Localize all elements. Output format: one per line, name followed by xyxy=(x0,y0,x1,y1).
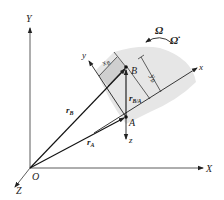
point-B xyxy=(124,65,128,69)
label-omega-dot: Ω̇ xyxy=(170,34,180,46)
label-omega: Ω xyxy=(155,24,164,36)
label-local-x: x xyxy=(198,62,203,72)
label-Y: Y xyxy=(26,13,33,24)
point-A xyxy=(124,115,128,119)
label-r-A: rA xyxy=(87,137,95,148)
rigid-body-kinematics-diagram: Y X Z O x y z B A rB rA rB/A xB yB Ω Ω̇ xyxy=(0,0,224,200)
label-A: A xyxy=(128,117,136,128)
label-B: B xyxy=(131,65,137,76)
rigid-body-shape xyxy=(96,47,196,124)
label-X: X xyxy=(205,163,213,174)
rotation-arc-icon xyxy=(146,38,172,43)
vector-r-A xyxy=(30,118,124,168)
vector-r-B xyxy=(30,69,125,168)
label-local-z: z xyxy=(128,135,133,145)
label-Z: Z xyxy=(16,185,22,196)
label-O: O xyxy=(32,171,39,182)
label-r-B: rB xyxy=(66,105,74,116)
label-local-y: y xyxy=(81,50,86,60)
